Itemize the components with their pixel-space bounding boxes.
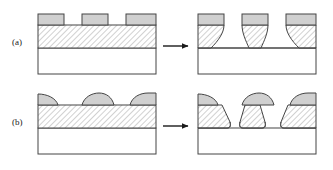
- mask-feature: [198, 14, 224, 25]
- row-b-after-panel: [198, 93, 316, 154]
- substrate-layer: [38, 128, 156, 154]
- mask-feature: [242, 14, 268, 25]
- mask-feature: [286, 14, 316, 25]
- figure-canvas: (a): [0, 0, 333, 170]
- substrate-layer: [38, 48, 156, 74]
- row-a-label: (a): [12, 37, 22, 47]
- row-a-before-panel: [38, 14, 156, 74]
- mask-feature: [82, 14, 108, 25]
- etched-film-pillar-tapered: [240, 105, 266, 128]
- mask-feature: [38, 14, 64, 25]
- film-layer: [38, 105, 156, 128]
- substrate-layer: [198, 128, 316, 154]
- mask-feature: [126, 14, 156, 25]
- row-b-label: (b): [12, 117, 23, 127]
- substrate-layer: [198, 48, 316, 74]
- row-b-before-panel: [38, 93, 156, 154]
- etch-profile-figure: (a): [0, 0, 333, 170]
- film-layer: [38, 25, 156, 48]
